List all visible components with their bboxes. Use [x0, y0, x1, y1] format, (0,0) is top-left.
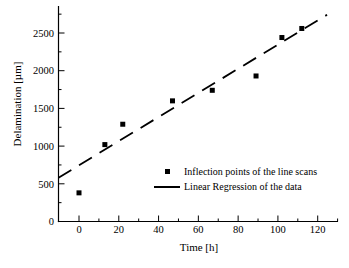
legend-label-points: Inflection points of the line scans — [182, 166, 317, 177]
legend-square-marker-icon — [152, 169, 182, 174]
legend-row-points: Inflection points of the line scans — [152, 164, 317, 179]
x-tick-label: 0 — [76, 224, 81, 235]
legend-row-regression: Linear Regression of the data — [152, 179, 317, 194]
delamination-vs-time-figure: 02040608010012005001000150020002500 Dela… — [0, 0, 349, 268]
y-tick-label: 0 — [49, 216, 54, 227]
data-point-marker — [170, 98, 175, 103]
x-tick-label: 20 — [114, 224, 125, 235]
x-axis-title: Time [h] — [58, 241, 340, 253]
data-point-marker — [102, 142, 107, 147]
chart-canvas: 02040608010012005001000150020002500 — [0, 0, 349, 268]
x-tick-label: 100 — [270, 224, 286, 235]
y-tick-label: 1000 — [33, 141, 54, 152]
data-point-marker — [120, 122, 125, 127]
x-tick-label: 120 — [310, 224, 326, 235]
x-tick-label: 40 — [153, 224, 164, 235]
legend-line-marker-icon — [152, 186, 182, 188]
y-tick-label: 2500 — [33, 28, 54, 39]
legend: Inflection points of the line scans Line… — [152, 164, 317, 194]
data-point-marker — [279, 35, 284, 40]
x-tick-label: 80 — [233, 224, 244, 235]
data-point-marker — [210, 88, 215, 93]
legend-label-regression: Linear Regression of the data — [182, 181, 302, 192]
x-tick-label: 60 — [193, 224, 204, 235]
y-tick-label: 2000 — [33, 65, 54, 76]
data-point-marker — [299, 26, 304, 31]
data-point-marker — [254, 73, 259, 78]
regression-line — [59, 15, 328, 178]
y-tick-label: 500 — [38, 179, 54, 190]
data-point-marker — [77, 190, 82, 195]
y-axis-title: Delamination [µm] — [11, 44, 25, 164]
y-tick-label: 1500 — [33, 103, 54, 114]
